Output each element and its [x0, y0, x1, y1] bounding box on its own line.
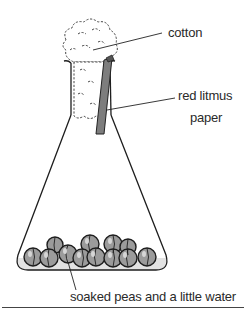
peas-label: soaked peas and a little water	[70, 290, 236, 303]
soaked-peas	[24, 235, 156, 267]
flask-diagram	[0, 0, 247, 318]
litmus-leader-line	[107, 98, 175, 110]
litmus-label-line1: red litmus	[178, 89, 232, 102]
bottom-divider	[2, 307, 244, 308]
cotton-label: cotton	[168, 26, 202, 39]
litmus-label-line2: paper	[190, 111, 222, 124]
